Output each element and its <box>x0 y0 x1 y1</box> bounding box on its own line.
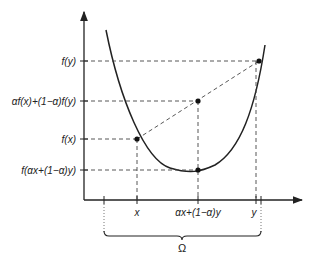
label-omega: Ω <box>178 242 186 254</box>
label-fy: f(y) <box>62 56 76 67</box>
convexity-diagram: f(y) αf(x)+(1−α)f(y) f(x) f(αx+(1−α)y) x… <box>0 0 309 265</box>
label-y: y <box>251 207 258 218</box>
domain-brace <box>104 231 261 240</box>
diagram-canvas: f(y) αf(x)+(1−α)f(y) f(x) f(αx+(1−α)y) x… <box>0 0 309 265</box>
label-x: x <box>134 207 141 218</box>
label-combo-x: αx+(1−α)y <box>175 207 221 218</box>
label-combo: αf(x)+(1−α)f(y) <box>12 96 76 107</box>
label-fx: f(x) <box>62 134 76 145</box>
label-fcombo: f(αx+(1−α)y) <box>21 165 76 176</box>
